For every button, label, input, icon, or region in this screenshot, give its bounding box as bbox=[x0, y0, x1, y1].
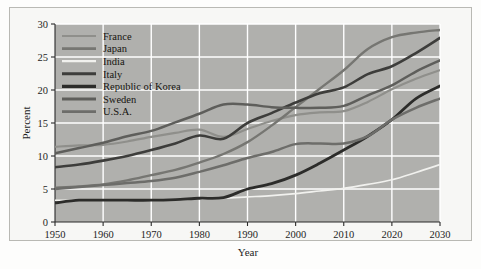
y-tick-label: 20 bbox=[38, 85, 49, 96]
x-tick-label: 1970 bbox=[141, 229, 162, 240]
y-axis-title: Percent bbox=[20, 107, 32, 140]
y-tick-label: 30 bbox=[38, 19, 49, 30]
legend-label: Sweden bbox=[103, 94, 137, 105]
legend-label: India bbox=[103, 56, 125, 67]
legend-label: Republic of Korea bbox=[103, 81, 181, 92]
x-tick-label: 2030 bbox=[430, 229, 451, 240]
y-axis-ticks bbox=[51, 24, 55, 222]
y-tick-label: 10 bbox=[38, 151, 49, 162]
y-tick-label: 0 bbox=[43, 217, 48, 228]
legend-label: U.S.A. bbox=[103, 106, 132, 117]
y-tick-label: 15 bbox=[38, 118, 49, 129]
x-axis-ticks bbox=[55, 222, 440, 226]
figure-container: 051015202530 195019601970198019902000201… bbox=[0, 0, 481, 269]
y-tick-label: 5 bbox=[43, 184, 48, 195]
x-tick-label: 2000 bbox=[285, 229, 306, 240]
x-axis-title: Year bbox=[238, 246, 259, 258]
x-tick-label: 1990 bbox=[237, 229, 258, 240]
legend-label: Japan bbox=[103, 43, 128, 54]
x-tick-label: 1950 bbox=[45, 229, 66, 240]
x-tick-label: 1980 bbox=[189, 229, 210, 240]
x-axis-tick-labels: 195019601970198019902000201020202030 bbox=[45, 229, 451, 240]
x-tick-label: 2020 bbox=[381, 229, 402, 240]
x-tick-label: 2010 bbox=[333, 229, 354, 240]
y-axis-tick-labels: 051015202530 bbox=[38, 19, 49, 228]
legend-label: Italy bbox=[103, 69, 123, 80]
y-tick-label: 25 bbox=[38, 52, 49, 63]
x-tick-label: 1960 bbox=[93, 229, 114, 240]
legend-label: France bbox=[103, 31, 132, 42]
line-chart: 051015202530 195019601970198019902000201… bbox=[0, 0, 481, 269]
